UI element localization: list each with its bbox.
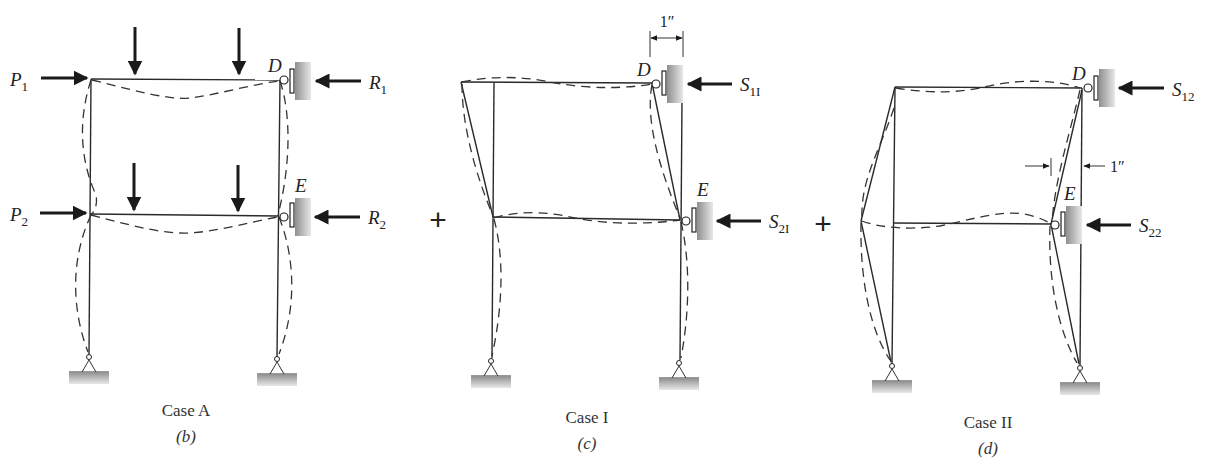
frame-members — [89, 79, 280, 357]
pin-support-left — [69, 355, 109, 385]
plus-operator: + — [429, 203, 447, 236]
panel-label: (c) — [578, 434, 597, 453]
svg-text:P2: P2 — [9, 204, 28, 229]
panel-label: (b) — [176, 427, 196, 446]
superposition-diagram: P1 P2 D E R1 R2 — [0, 0, 1211, 469]
joint-label-e: E — [294, 175, 307, 196]
lateral-load-p1: P1 — [9, 69, 87, 94]
case-label: Case II — [964, 413, 1013, 432]
deflected-shape — [76, 80, 292, 354]
reaction-s21: S2I — [717, 211, 789, 236]
pin-support-right — [659, 361, 699, 391]
case-label: Case I — [566, 408, 609, 427]
panel-case-a: P1 P2 D E R1 R2 — [9, 27, 387, 446]
joint-label-e: E — [1063, 183, 1076, 204]
reaction-r1: R1 — [316, 72, 387, 97]
roller-support-d: D — [636, 59, 683, 103]
gravity-load-arrows — [134, 27, 239, 211]
roller-support-e: E — [682, 179, 713, 240]
panel-label: (d) — [978, 439, 998, 458]
panel-case-i: 1″ D E S1I S2I — [461, 13, 789, 453]
panel-case-ii: 1″ D E S12 S22 — [861, 63, 1195, 458]
svg-text:S22: S22 — [1139, 215, 1162, 240]
pin-support-left — [471, 359, 511, 389]
pin-support-right — [1060, 366, 1100, 396]
svg-text:S1I: S1I — [740, 74, 760, 99]
roller-support-d: D — [267, 55, 311, 100]
deflected-shape — [462, 78, 688, 359]
case-label: Case A — [162, 401, 211, 420]
dimension-1-inch: 1″ — [650, 13, 683, 57]
svg-text:S12: S12 — [1172, 79, 1195, 104]
original-frame — [492, 83, 682, 360]
joint-label-e: E — [696, 179, 709, 200]
dimension-1-inch: 1″ — [1025, 158, 1125, 176]
lateral-load-p2: P2 — [9, 204, 86, 229]
plus-operator: + — [814, 207, 832, 240]
svg-text:1″: 1″ — [660, 13, 675, 30]
svg-text:1″: 1″ — [1110, 158, 1125, 175]
joint-label-d: D — [267, 55, 282, 76]
reaction-s11: S1I — [688, 74, 760, 99]
svg-text:P1: P1 — [9, 69, 28, 94]
pin-support-right — [257, 357, 297, 387]
pin-support-left — [872, 364, 912, 394]
roller-support-e: E — [280, 175, 311, 236]
svg-text:R1: R1 — [368, 72, 387, 97]
reaction-s12: S12 — [1119, 79, 1195, 104]
joint-label-d: D — [1071, 63, 1086, 84]
joint-label-d: D — [636, 59, 651, 80]
svg-text:S2I: S2I — [769, 211, 789, 236]
reaction-r2: R2 — [315, 207, 386, 232]
svg-text:R2: R2 — [367, 207, 386, 232]
reaction-s22: S22 — [1087, 215, 1162, 240]
roller-support-d: D — [1071, 63, 1115, 107]
